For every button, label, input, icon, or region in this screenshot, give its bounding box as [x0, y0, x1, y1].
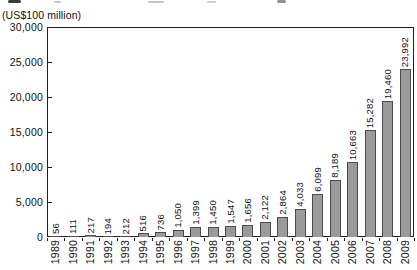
bar-value-label: 217 [86, 217, 96, 233]
x-tick [169, 238, 170, 241]
bar [400, 69, 411, 237]
cropped-title-fragment [54, 1, 61, 3]
cropped-title-fragment [207, 1, 216, 3]
bar-value-label: 8,189 [330, 153, 340, 178]
x-axis-label: 2000 [242, 240, 253, 264]
x-axis-label: 1998 [208, 240, 219, 264]
x-axis-label: 2009 [400, 240, 411, 264]
bar [138, 233, 149, 237]
x-axis-label: 2004 [312, 240, 323, 264]
bar [85, 235, 96, 237]
x-tick [134, 238, 135, 241]
x-tick [362, 238, 363, 241]
bar [173, 230, 184, 237]
x-axis-label: 2005 [330, 240, 341, 264]
x-axis-label: 2002 [277, 240, 288, 264]
bar-value-label: 736 [156, 214, 166, 230]
x-axis-label: 1990 [68, 240, 79, 264]
bar-value-label: 1,656 [243, 198, 253, 223]
x-axis-label: 2001 [260, 240, 271, 264]
x-tick [379, 238, 380, 241]
cropped-title-fragment [277, 0, 286, 3]
y-tick-label: 25,000 [0, 56, 43, 68]
bar [68, 236, 79, 237]
bar [155, 232, 166, 237]
bar-value-label: 111 [68, 219, 78, 234]
bar-value-label: 19,460 [383, 69, 393, 99]
bar-value-label: 23,992 [400, 37, 410, 67]
x-tick [204, 238, 205, 241]
y-axis-unit-label: (US$100 million) [2, 9, 81, 21]
bar [347, 162, 358, 237]
bar-value-label: 2,122 [260, 195, 270, 220]
x-axis-label: 1997 [190, 240, 201, 264]
x-tick [187, 238, 188, 241]
x-tick [99, 238, 100, 241]
x-tick [239, 238, 240, 241]
x-axis-label: 1996 [173, 240, 184, 264]
bar [190, 227, 201, 237]
bar-value-label: 1,450 [208, 200, 218, 225]
bar [330, 180, 341, 237]
cropped-title-fragment [148, 1, 164, 3]
bar-value-label: 56 [51, 223, 61, 234]
x-axis-label: 1995 [155, 240, 166, 264]
y-tick-label: 15,000 [0, 126, 43, 138]
x-axis-label: 2006 [347, 240, 358, 264]
bar [120, 236, 131, 237]
y-tick [48, 167, 52, 168]
x-tick [64, 238, 65, 241]
x-axis-label: 1991 [85, 240, 96, 264]
x-axis-label: 1989 [50, 240, 61, 264]
bar-value-label: 15,282 [365, 98, 375, 128]
x-tick [274, 238, 275, 241]
bar-value-label: 1,547 [226, 199, 236, 224]
y-tick-label: 10,000 [0, 161, 43, 173]
x-tick [309, 238, 310, 241]
bar [295, 209, 306, 237]
y-tick-label: 20,000 [0, 91, 43, 103]
y-tick [48, 202, 52, 203]
x-tick [152, 238, 153, 241]
bar [260, 222, 271, 237]
x-tick [327, 238, 328, 241]
y-tick-label: 5,000 [0, 196, 43, 208]
bar [103, 236, 114, 237]
x-tick [257, 238, 258, 241]
bar-value-label: 2,864 [278, 190, 288, 215]
bar [382, 101, 393, 237]
x-tick [344, 238, 345, 241]
x-axis-label: 1999 [225, 240, 236, 264]
x-axis-label: 2003 [295, 240, 306, 264]
y-tick [48, 62, 52, 63]
bar-value-label: 516 [138, 215, 148, 231]
bar [208, 227, 219, 237]
bar-value-label: 6,099 [313, 167, 323, 192]
y-tick [48, 132, 52, 133]
bar [312, 194, 323, 237]
y-tick-label: 0 [0, 231, 43, 243]
x-tick [117, 238, 118, 241]
x-tick [47, 238, 48, 241]
bar-value-label: 10,663 [348, 130, 358, 160]
x-tick [292, 238, 293, 241]
bar [365, 130, 376, 237]
y-tick [48, 97, 52, 98]
x-axis-label: 2007 [365, 240, 376, 264]
cropped-title-fragment [8, 0, 21, 3]
bar [277, 217, 288, 237]
bar-value-label: 194 [103, 218, 113, 234]
x-axis-label: 1994 [138, 240, 149, 264]
bar-chart-figure: (US$100 million) 05,00010,00015,00020,00… [0, 0, 417, 270]
x-tick [82, 238, 83, 241]
bar-value-label: 1,050 [173, 203, 183, 228]
bar [242, 225, 253, 237]
bar [50, 236, 61, 237]
bar [225, 226, 236, 237]
bar-value-label: 212 [121, 218, 131, 234]
bar-value-label: 1,399 [191, 200, 201, 225]
x-axis-label: 1992 [103, 240, 114, 264]
bar-value-label: 4,033 [295, 182, 305, 207]
x-axis-label: 1993 [120, 240, 131, 264]
x-tick [222, 238, 223, 241]
